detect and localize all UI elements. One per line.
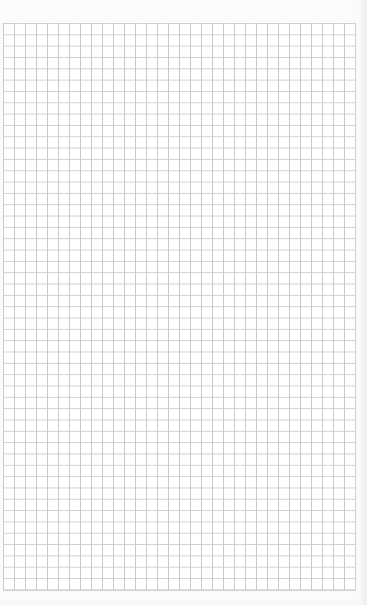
page-edge (359, 0, 367, 605)
paper-sheet (0, 0, 361, 600)
grid-area (3, 23, 356, 591)
